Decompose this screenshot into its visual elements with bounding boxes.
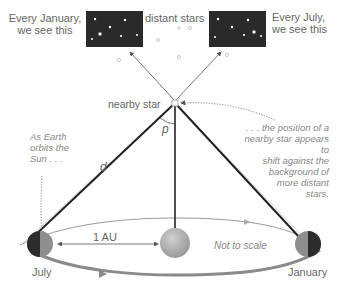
earth-orbit-note: As Earth orbits the Sun . . .: [30, 131, 69, 164]
july-view-line1: Every July,: [272, 11, 327, 23]
july-label: July: [32, 266, 52, 278]
orbit-note-line3: Sun . . .: [30, 153, 69, 164]
scale-note: Not to scale: [214, 240, 267, 251]
shift-note-line5: more distant: [236, 177, 329, 188]
shift-note-line2: nearby star appears to: [236, 133, 329, 155]
shift-note-line6: stars.: [236, 188, 329, 199]
january-view-line2: we see this: [4, 24, 86, 36]
january-view-label: Every January, we see this: [4, 12, 86, 36]
january-label: January: [288, 266, 327, 278]
nearby-star-icon: [172, 100, 178, 106]
shift-note-pointer: [181, 103, 275, 120]
orbit-arrow-back: [244, 219, 250, 225]
sight-line-july: [175, 52, 221, 101]
january-view-line1: Every January,: [4, 12, 86, 24]
shift-note: . . . the position of a nearby star appe…: [236, 122, 329, 199]
sight-line-january: [130, 52, 175, 101]
january-sky-box: [86, 11, 143, 47]
earth-january-icon: [295, 231, 321, 257]
july-view-label: Every July, we see this: [272, 11, 327, 35]
shift-note-line3: shift against the: [236, 155, 329, 166]
sun-icon: [160, 228, 190, 258]
earth-july-icon: [27, 231, 53, 257]
orbit-note-pointer: [41, 176, 42, 236]
distance-label: d: [100, 161, 107, 173]
parallax-angle-label: p: [162, 123, 169, 135]
distant-stars-label: distant stars: [145, 12, 204, 24]
nearby-star-label: nearby star: [108, 98, 161, 110]
orbit-note-line1: As Earth: [30, 131, 69, 142]
july-view-line2: we see this: [272, 23, 327, 35]
orbit-note-line2: orbits the: [30, 142, 69, 153]
shift-note-line4: background of: [236, 166, 329, 177]
shift-note-line1: . . . the position of a: [236, 122, 329, 133]
july-sky-box: [209, 11, 266, 47]
au-label: 1 AU: [93, 231, 117, 243]
